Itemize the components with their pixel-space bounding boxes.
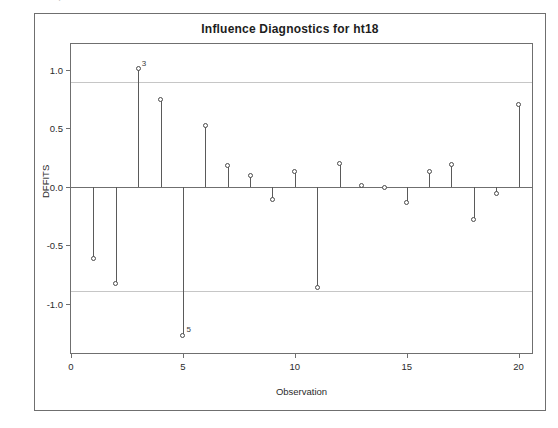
y-axis-tick [66, 187, 71, 188]
x-axis-title: Observation [70, 386, 533, 397]
x-axis-tick [407, 353, 408, 358]
x-axis-tick-label: 20 [513, 361, 524, 372]
data-point-marker[interactable] [180, 333, 185, 338]
data-point-marker[interactable] [203, 123, 208, 128]
data-point-marker[interactable] [494, 191, 499, 196]
data-point-marker[interactable] [449, 162, 454, 167]
plot-area: 1.00.50.0-0.5-1.00510152035 [70, 43, 533, 354]
data-point-marker[interactable] [337, 161, 342, 166]
data-point-label: 5 [186, 325, 190, 334]
data-stem [205, 126, 206, 187]
y-axis-tick-label: -0.5 [47, 240, 63, 251]
x-axis-tick-label: 5 [180, 361, 185, 372]
data-point-marker[interactable] [516, 102, 521, 107]
data-point-marker[interactable] [427, 169, 432, 174]
dffits-cutoff-line-lower [71, 291, 532, 292]
x-axis-tick-label: 0 [68, 361, 73, 372]
data-point-marker[interactable] [292, 169, 297, 174]
data-point-marker[interactable] [315, 285, 320, 290]
data-stem [340, 163, 341, 186]
data-stem [451, 165, 452, 187]
data-point-marker[interactable] [382, 185, 387, 190]
data-point-marker[interactable] [225, 163, 230, 168]
data-stem [228, 166, 229, 187]
data-point-marker[interactable] [404, 200, 409, 205]
data-stem [183, 187, 184, 336]
data-stem [474, 187, 475, 220]
data-point-label: 3 [142, 59, 146, 68]
data-stem [93, 187, 94, 258]
data-stem [116, 187, 117, 284]
x-axis-tick [295, 353, 296, 358]
y-axis-tick-label: 1.0 [50, 64, 63, 75]
y-axis-tick-label: -1.0 [47, 298, 63, 309]
data-stem [138, 69, 139, 187]
y-axis-tick [66, 304, 71, 305]
zero-reference-line [71, 187, 532, 188]
cropped-text-artifact: . [0, 0, 558, 7]
y-axis-tick-label: 0.0 [50, 181, 63, 192]
y-axis-tick-label: 0.5 [50, 123, 63, 134]
x-axis-tick [183, 353, 184, 358]
x-axis-tick-label: 10 [289, 361, 300, 372]
dffits-cutoff-line-upper [71, 82, 532, 83]
data-point-marker[interactable] [113, 281, 118, 286]
x-axis-tick [71, 353, 72, 358]
chart-title: Influence Diagnostics for ht18 [34, 22, 546, 36]
y-axis-tick [66, 245, 71, 246]
data-point-marker[interactable] [158, 97, 163, 102]
data-point-marker[interactable] [248, 173, 253, 178]
data-point-marker[interactable] [471, 217, 476, 222]
y-axis-tick [66, 70, 71, 71]
data-stem [317, 187, 318, 288]
data-point-marker[interactable] [270, 197, 275, 202]
ghost-text-fragment: . [58, 0, 61, 3]
data-stem [161, 99, 162, 187]
data-stem [519, 105, 520, 187]
x-axis-tick [519, 353, 520, 358]
data-point-marker[interactable] [91, 256, 96, 261]
y-axis-tick [66, 128, 71, 129]
x-axis-tick-label: 15 [401, 361, 412, 372]
data-point-marker[interactable] [136, 66, 141, 71]
